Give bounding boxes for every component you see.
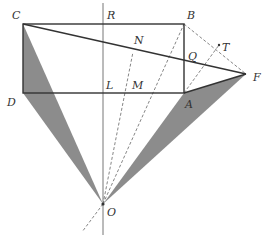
- label-r: R: [106, 9, 115, 22]
- label-d: D: [6, 96, 16, 109]
- label-n: N: [133, 34, 144, 47]
- label-f: F: [252, 71, 261, 84]
- label-m: M: [131, 79, 144, 92]
- label-c: C: [12, 9, 21, 22]
- dashed-line-on: [103, 52, 133, 204]
- dashed-line-fo-extension: [82, 204, 103, 232]
- label-b: B: [186, 9, 195, 22]
- label-q: Q: [188, 50, 197, 63]
- geometry-diagram: C R B N Q T F D L M A O: [0, 0, 271, 249]
- point-t-dot: [218, 44, 220, 46]
- label-o: O: [107, 206, 116, 219]
- line-cf: [23, 24, 246, 74]
- shaded-triangle-cdo: [23, 24, 103, 204]
- label-l: L: [105, 79, 113, 92]
- label-t: T: [222, 41, 231, 54]
- point-o-dot: [101, 202, 104, 205]
- label-a: A: [184, 98, 193, 111]
